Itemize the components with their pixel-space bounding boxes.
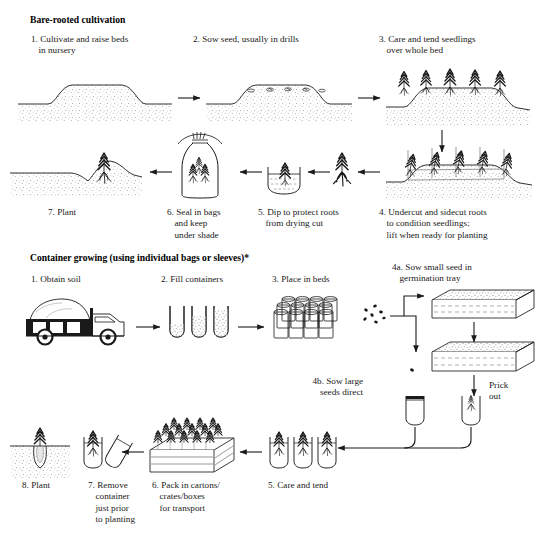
seed-direct-icon <box>410 368 415 373</box>
flow-arrow <box>390 296 424 316</box>
step-text: Place in beds <box>281 274 329 284</box>
step-text: Fill containers <box>170 274 223 284</box>
undercut-bed-icon <box>386 147 532 200</box>
step-text: Cultivate and raise beds in nursery <box>39 34 129 55</box>
step-label-cg-4a: 4a. Sow small seed in germination tray <box>392 262 538 285</box>
germination-tray-icon <box>432 342 534 371</box>
lifted-seedling-icon <box>333 153 351 186</box>
step-text: Sow seed, usually in drills <box>202 34 299 44</box>
step-number: 8. <box>22 480 29 490</box>
step-text: Dip to protect roots from drying cut <box>266 207 339 228</box>
step-label-br-2: 2. Sow seed, usually in drills <box>193 34 361 45</box>
raised-bed-icon <box>18 85 172 121</box>
step-label-cg-6: 6. Pack in cartons/ crates/boxes for tra… <box>152 480 268 514</box>
step-text: Plant <box>31 480 50 490</box>
packed-crate-icon <box>150 418 234 472</box>
step-label-cg-7: 7. Remove container just prior to planti… <box>88 480 162 526</box>
germination-tray-icon <box>432 290 534 318</box>
planted-seedling-icon <box>10 153 142 196</box>
step-number: 7. <box>88 480 95 490</box>
step-label-cg-4b: 4b. Sow large seeds direct <box>288 376 388 399</box>
step-number: 7. <box>48 207 55 217</box>
step-label-br-6: 6. Seal in bags and keep under shade <box>167 207 261 241</box>
annotation-prick-out: Prick out <box>489 380 508 403</box>
step-text: Sow small seed in germination tray <box>400 262 472 283</box>
seed-cluster-icon <box>363 304 386 324</box>
section-heading-bare-rooted: Bare-rooted cultivation <box>30 14 125 26</box>
step-text: Care and tend seedlings over whole bed <box>387 34 476 55</box>
step-label-cg-5: 5. Care and tend <box>268 480 386 491</box>
potted-seedlings-icon <box>270 432 336 468</box>
step-number: 2. <box>161 274 168 284</box>
step-number: 1. <box>31 274 38 284</box>
step-number: 4a. <box>392 262 403 272</box>
step-text: Undercut and sidecut roots to condition … <box>387 207 488 240</box>
step-label-cg-8: 8. Plant <box>22 480 50 491</box>
step-number: 6. <box>167 207 174 217</box>
step-label-br-1: 1. Cultivate and raise beds in nursery <box>31 34 189 57</box>
step-number: 2. <box>193 34 200 44</box>
remove-sleeve-icon <box>84 431 132 470</box>
direct-sown-tube-icon <box>406 396 424 425</box>
step-text: Care and tend <box>277 480 328 490</box>
pricked-out-tube-icon <box>462 396 480 425</box>
seedling-bed-icon <box>386 69 530 126</box>
dipping-basin-icon <box>268 163 300 194</box>
step-number: 1. <box>31 34 38 44</box>
step-text: Sow large seeds direct <box>320 376 363 397</box>
step-text: Seal in bags and keep under shade <box>175 207 221 240</box>
step-label-br-4: 4. Undercut and sidecut roots to conditi… <box>379 207 538 241</box>
step-label-cg-2: 2. Fill containers <box>161 274 279 285</box>
step-number: 3. <box>272 274 279 284</box>
step-text: Plant <box>57 207 76 217</box>
section-heading-container-growing: Container growing (using individual bags… <box>30 252 249 264</box>
step-label-cg-1: 1. Obtain soil <box>31 274 149 285</box>
soil-truck-icon <box>26 299 124 345</box>
step-label-br-7: 7. Plant <box>48 207 76 218</box>
step-label-cg-3: 3. Place in beds <box>272 274 390 285</box>
step-number: 4b. <box>312 376 323 386</box>
step-number: 5. <box>268 480 275 490</box>
flow-arrow <box>338 427 415 448</box>
step-text: Obtain soil <box>40 274 81 284</box>
sown-bed-icon <box>206 85 352 121</box>
planting-hole-icon <box>10 428 70 478</box>
filled-tubes-icon <box>170 306 228 337</box>
step-label-br-5: 5. Dip to protect roots from drying cut <box>258 207 382 230</box>
step-text: Remove container just prior to planting <box>96 480 136 524</box>
sealed-bag-icon <box>178 132 222 198</box>
step-number: 3. <box>379 34 386 44</box>
flow-arrow <box>404 316 416 352</box>
step-label-br-3: 3. Care and tend seedlings over whole be… <box>379 34 538 57</box>
step-text: Pack in cartons/ crates/boxes for transp… <box>160 480 220 513</box>
container-cluster-icon <box>274 297 337 338</box>
